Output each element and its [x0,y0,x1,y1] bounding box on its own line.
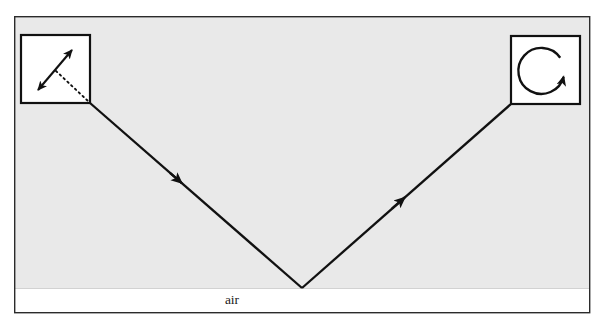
incident-polarization-inset [21,35,90,103]
figure-container: air [0,0,604,335]
reflected-polarization-inset [511,36,580,104]
upper-medium-region [15,17,589,288]
polarization-diagram-svg: air [0,0,604,335]
lower-medium-label: air [225,292,240,307]
lower-medium-region [15,288,589,312]
